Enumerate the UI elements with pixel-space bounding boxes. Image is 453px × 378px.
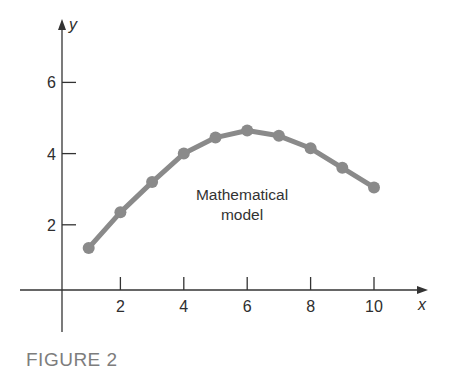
data-point (273, 130, 285, 142)
data-point (210, 132, 222, 144)
x-tick-label: 6 (243, 298, 252, 315)
x-tick-label: 4 (179, 298, 188, 315)
x-tick-label: 2 (116, 298, 125, 315)
annotation-line-2: model (221, 206, 263, 223)
data-point (305, 142, 317, 154)
data-point (114, 206, 126, 218)
y-tick-label: 2 (47, 217, 56, 234)
data-point (368, 181, 380, 193)
data-point (146, 176, 158, 188)
x-axis-arrow-icon (417, 286, 428, 294)
data-point (336, 162, 348, 174)
data-point (241, 124, 253, 136)
y-tick-label: 4 (47, 146, 56, 163)
data-point (83, 242, 95, 254)
chart: 246810 246 x y Mathematical model (0, 0, 453, 378)
x-tick-label: 8 (306, 298, 315, 315)
x-ticks: 246810 (116, 277, 383, 315)
x-tick-label: 10 (365, 298, 383, 315)
x-axis-label: x (417, 296, 427, 313)
y-tick-label: 6 (47, 74, 56, 91)
y-axis-arrow-icon (58, 19, 66, 30)
data-point (178, 148, 190, 160)
annotation-line-1: Mathematical (196, 186, 288, 203)
y-axis-label: y (68, 16, 78, 33)
figure-caption: FIGURE 2 (26, 349, 118, 371)
